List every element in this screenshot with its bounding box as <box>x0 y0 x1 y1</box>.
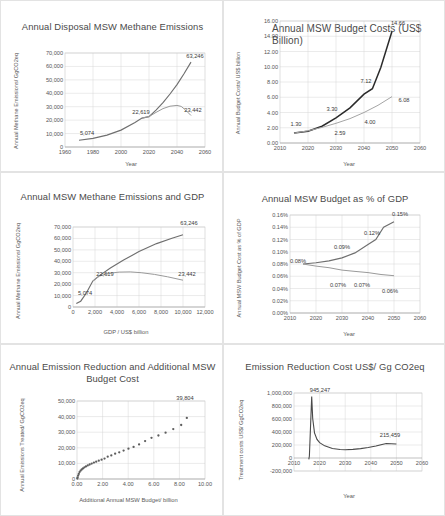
panel-3-data-label: 22,619 <box>96 271 113 277</box>
panel-1-data-label: 22,619 <box>132 109 149 115</box>
panel-2-data-label: 1.30 <box>290 121 301 127</box>
panel-4-xtick: 2060 <box>414 315 426 321</box>
panel-4-data-label: 0.07% <box>354 282 370 288</box>
panel-1-ytick: 40,000 <box>46 90 63 96</box>
panel-3-data-label: 23,442 <box>178 271 195 277</box>
panel-4-data-label: 0.15% <box>392 211 408 217</box>
panel-5-ytick: 20,000 <box>58 445 75 451</box>
chart-panel-emission-reduction-vs-budget: Annual Emission Reduction and Additional… <box>0 344 223 516</box>
panel-1-ytick: 70,000 <box>46 50 63 56</box>
panel-4-ytick: 0.12% <box>272 237 288 243</box>
panel-2-y-axis-label: Annual Budget Costs/ US$ billion <box>235 35 241 151</box>
panel-1-xtick: 2040 <box>171 149 183 155</box>
panel-2-ytick: 14.00 <box>264 33 278 39</box>
panel-3-y-axis-label: Annual Methane Emissions/ GgCO2eq <box>15 217 21 325</box>
panel-5-xtick: 0.00 <box>72 481 83 487</box>
panel-3-data-label: 63,246 <box>180 220 197 226</box>
panel-1-ytick: 60,000 <box>46 63 63 69</box>
panel-2-x-axis-label: Year <box>279 161 419 167</box>
panel-6-y-axis-label: Treatment costs US$/ GgCO2eq <box>238 380 244 500</box>
panel-4-xtick: 2040 <box>362 315 374 321</box>
panel-2-ytick: 4.00 <box>267 110 278 116</box>
panel-1-xtick: 1960 <box>59 149 71 155</box>
panel-4-xtick: 2010 <box>284 315 296 321</box>
panel-4-ytick: 0.16% <box>272 212 288 218</box>
panel-4-xtick: 2050 <box>388 315 400 321</box>
panel-5-svg <box>77 401 205 479</box>
panel-3-title: Annual MSW Methane Emissions and GDP <box>9 191 216 203</box>
panel-4-ytick: 0.10% <box>272 249 288 255</box>
panel-3-xtick: 2,000 <box>88 309 102 315</box>
panel-5-xtick: 8.00 <box>174 481 185 487</box>
panel-3-ytick: 60,000 <box>54 235 71 241</box>
panel-2-data-label: 2.59 <box>334 130 345 136</box>
panel-1-ytick: 20,000 <box>46 117 63 123</box>
panel-1-ytick: 10,000 <box>46 131 63 137</box>
panel-6-ytick: 400,000 <box>272 429 292 435</box>
panel-5-ytick: 30,000 <box>58 429 75 435</box>
panel-4-data-label: 0.12% <box>364 230 380 236</box>
panel-1-x-axis-label: Year <box>56 161 206 167</box>
panel-2-plot-area: 0.00 2.00 4.00 6.00 8.00 10.00 12.00 14.… <box>280 21 420 143</box>
panel-2-xtick: 2030 <box>330 145 342 151</box>
panel-6-ytick: -200,000 <box>270 468 292 474</box>
panel-3-xtick: 8,000 <box>154 309 168 315</box>
panel-5-data-label: 39,804 <box>176 395 193 401</box>
panel-1-data-label: 23,442 <box>184 107 201 113</box>
panel-4-x-axis-label: Year <box>279 331 419 337</box>
panel-6-x-axis-label: Year <box>279 493 419 499</box>
panel-4-ytick: 0.08% <box>272 261 288 267</box>
chart-panel-annual-disposal-msw-methane-emissions: Annual Disposal MSW Methane Emissions An… <box>0 0 223 172</box>
panel-3-ytick: 10,000 <box>54 293 71 299</box>
panel-1-data-label: 63,246 <box>186 53 203 59</box>
panel-5-ytick: 50,000 <box>58 398 75 404</box>
panel-6-ytick: 800,000 <box>272 403 292 409</box>
panel-2-ytick: 8.00 <box>267 79 278 85</box>
panel-2-ytick: 12.00 <box>264 49 278 55</box>
panel-5-xtick: 6.00 <box>148 481 159 487</box>
panel-2-xtick: 2040 <box>358 145 370 151</box>
panel-4-xtick: 2030 <box>336 315 348 321</box>
chart-panel-emission-reduction-cost: Emission Reduction Cost US$/ Gg CO2eq Tr… <box>223 344 445 516</box>
panel-6-ytick: 600,000 <box>272 416 292 422</box>
panel-2-xtick: 2020 <box>302 145 314 151</box>
chart-panel-msw-methane-emissions-and-gdp: Annual MSW Methane Emissions and GDP Ann… <box>0 172 223 344</box>
panel-5-title: Annual Emission Reduction and Additional… <box>9 361 216 385</box>
panel-6-data-label: 945,247 <box>310 387 331 393</box>
panel-5-xtick: 4.00 <box>123 481 134 487</box>
panel-1-xtick: 2000 <box>115 149 127 155</box>
panel-3-xtick: 4,000 <box>110 309 124 315</box>
panel-6-title: Emission Reduction Cost US$/ Gg CO2eq <box>232 361 438 373</box>
panel-2-ytick: 16.00 <box>264 18 278 24</box>
panel-1-plot-area: 0 10,000 20,000 30,000 40,000 50,000 60,… <box>65 53 205 147</box>
panel-1-xtick: 2020 <box>143 149 155 155</box>
panel-3-ytick: 70,000 <box>54 224 71 230</box>
panel-6-ytick: 200,000 <box>272 442 292 448</box>
panel-4-ytick: 0.04% <box>272 286 288 292</box>
panel-1-ytick: 50,000 <box>46 77 63 83</box>
panel-5-xtick: 2.00 <box>97 481 108 487</box>
panel-2-data-label: 4.00 <box>364 119 375 125</box>
panel-3-ytick: 30,000 <box>54 270 71 276</box>
panel-4-ytick: 0.02% <box>272 298 288 304</box>
panel-4-data-label: 0.07% <box>330 282 346 288</box>
panel-2-xtick: 2010 <box>274 145 286 151</box>
panel-4-data-label: 0.09% <box>334 244 350 250</box>
panel-4-ytick: 0.14% <box>272 224 288 230</box>
panel-5-ytick: 10,000 <box>58 460 75 466</box>
panel-4-data-label: 0.06% <box>382 288 398 294</box>
panel-4-y-axis-label: Annual MSW Budget Cost as % of GDP <box>236 213 242 323</box>
panel-3-data-label: 5,074 <box>78 290 92 296</box>
panel-1-y-axis-label: Annual Methane Emissions/ GgCO2eq <box>13 46 19 156</box>
panel-5-x-axis-label: Additional Annual MSW Budget/ billion <box>41 497 216 503</box>
panel-2-data-label: 7.12 <box>360 78 371 84</box>
panel-1-xtick: 2060 <box>199 149 211 155</box>
panel-6-plot-area: -200,000 0 200,000 400,000 600,000 800,0… <box>294 393 422 471</box>
panel-3-plot-area: 0 10,000 20,000 30,000 40,000 50,000 60,… <box>73 227 205 307</box>
panel-3-xtick: 10,000 <box>174 309 191 315</box>
panel-2-ytick: 2.00 <box>267 125 278 131</box>
panel-4-svg <box>290 215 420 313</box>
panel-2-data-label: 6.08 <box>398 97 409 103</box>
panel-5-plot-area: 0 10,000 20,000 30,000 40,000 50,000 0.0… <box>77 401 205 479</box>
panel-6-data-label: 215,459 <box>380 432 401 438</box>
